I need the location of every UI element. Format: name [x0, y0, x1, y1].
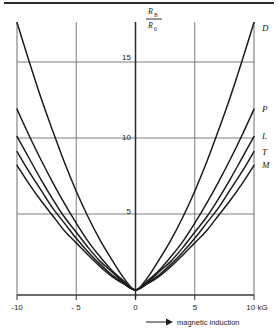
x-tick-label-minus5: - 5: [71, 303, 81, 312]
x-tick-label-minus10: -10: [11, 303, 23, 312]
x-tick-label-5: 5: [193, 303, 198, 312]
y-tick-label-10: 10: [122, 133, 131, 142]
y-axis-label-denominator: R: [147, 21, 153, 30]
x-tick-label-10kg: 10 kG: [246, 303, 267, 312]
x-axis-caption-arrow-head: [166, 319, 173, 326]
curve-label-t: T: [262, 147, 268, 157]
y-axis-label-numerator: R: [147, 7, 153, 16]
curve-label-l: L: [261, 131, 267, 141]
x-axis-caption: magnetic induction: [146, 318, 240, 327]
y-tick-label-15: 15: [122, 53, 131, 62]
curve-label-d: D: [261, 23, 269, 33]
curve-end-labels: DPLTM: [261, 23, 270, 170]
curve-label-m: M: [261, 160, 270, 170]
x-axis-caption-text: magnetic induction: [177, 318, 240, 327]
chart-canvas: 15 10 5 -10 - 5 0 5 10 kG R B R 0 magnet…: [0, 0, 278, 331]
y-axis-label: R B R 0: [146, 7, 162, 32]
curve-label-p: P: [261, 104, 268, 114]
x-tick-label-zero: 0: [133, 303, 138, 312]
figure-container: 15 10 5 -10 - 5 0 5 10 kG R B R 0 magnet…: [0, 0, 278, 331]
y-tick-label-5: 5: [127, 207, 132, 216]
y-axis-label-denominator-subscript: 0: [154, 26, 157, 32]
y-axis-label-numerator-subscript: B: [154, 12, 158, 18]
